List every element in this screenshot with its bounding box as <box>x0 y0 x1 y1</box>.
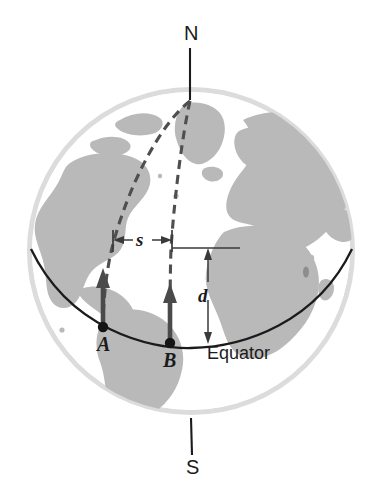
land-island-4 <box>244 176 249 181</box>
polar-axis-south <box>191 418 192 455</box>
north-pole-label: N <box>184 23 199 43</box>
point-b-marker <box>165 338 175 348</box>
earth-globe-diagram: N S A B s d Equator <box>0 0 375 498</box>
globe-illustration <box>0 0 375 498</box>
land-island-5 <box>59 327 64 332</box>
point-a-label: A <box>97 334 110 354</box>
arc-distance-label: s <box>136 230 143 249</box>
land-island-6 <box>298 196 303 201</box>
land-island-1 <box>308 255 314 261</box>
land-island-3 <box>158 174 162 178</box>
vertical-distance-label: d <box>198 286 208 305</box>
point-a-marker <box>98 322 108 332</box>
south-pole-label: S <box>186 457 200 477</box>
point-b-label: B <box>163 350 176 370</box>
equator-label: Equator <box>207 344 270 362</box>
land-speck-dark <box>303 267 309 278</box>
